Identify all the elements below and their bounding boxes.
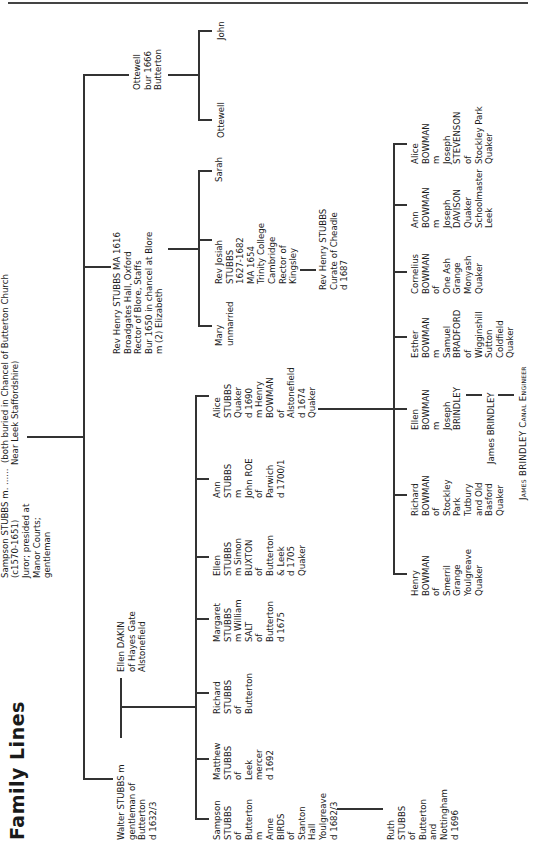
connector-b-alice xyxy=(393,144,407,146)
connector-b-cornelius xyxy=(393,272,407,274)
node-richard-stubbs: Richard STUBBS of Butterton xyxy=(212,673,254,714)
node-sampson-stubbs-root: Sampson STUBBS m. ...... (both buried in… xyxy=(0,274,11,578)
node-walter-stubbs: Walter STUBBS m gentleman of Butterton d… xyxy=(116,764,158,840)
connector-b-ellen xyxy=(393,409,407,411)
connector-o-john xyxy=(198,31,212,33)
node-matthew-stubbs: Matthew STUBBS of Leek mercer d 1692 xyxy=(212,743,276,780)
connector-w-margaret xyxy=(195,619,209,621)
node-ottewell: Ottewell bur 1666 Butterton xyxy=(132,49,164,90)
node-ann-stubbs: Ann STUBBS m John ROE of Parwich d 1700/… xyxy=(212,458,286,498)
node-ellen-bowman: Ellen BOWMAN m Joseph BRINDLEY xyxy=(410,387,463,430)
node-sampson-stubbs-dates: (c1570-1651) Near Leek Staffordshire) xyxy=(10,361,21,578)
node-margaret-stubbs: Margaret STUBBS m William SALT of Butter… xyxy=(212,599,286,642)
node-ottewell-jr: Ottewell xyxy=(216,102,227,138)
connector-bowman-children-bar xyxy=(393,144,395,575)
node-cornelius-bowman: Cornelius BOWMAN of One Ash Grange Monya… xyxy=(410,253,484,294)
node-rev-josiah-stubbs: Rev Josiah STUBBS 1627-1682 MA 1654 Trin… xyxy=(214,223,299,284)
node-john: John xyxy=(216,21,227,40)
connector-o-ottewell xyxy=(198,120,212,122)
node-esther-bowman: Esther BOWMAN m Samuel BRADFORD of Wiggi… xyxy=(410,310,516,358)
connector-ottewell xyxy=(83,75,129,77)
connector-rev-henry-children-stub xyxy=(168,249,198,251)
connector-h-mary xyxy=(198,326,212,328)
connector-rev-henry-jr xyxy=(300,270,316,272)
node-sampson-stubbs-details: Juror; presided at Manor Courts; gentlem… xyxy=(21,504,53,578)
page-title: Family Lines xyxy=(6,701,28,840)
connector-root-stub xyxy=(27,437,83,439)
node-sarah-stubbs: Sarah xyxy=(214,157,225,182)
connector-w-ann xyxy=(195,479,209,481)
node-rev-henry-stubbs: Rev Henry STUBBS MA 1616 Broadgates Hall… xyxy=(112,232,165,354)
connector-walter-children-bar xyxy=(195,396,197,820)
connector-gen2-bar xyxy=(83,75,85,780)
connector-james-brindley-engineer xyxy=(498,395,514,397)
page-edge-rule xyxy=(8,2,528,4)
node-ellen-dakin: Ellen DAKIN of Hayes Gate Alstonefield xyxy=(116,611,148,672)
node-sampson-stubbs-jr: Sampson STUBBS of Butterton m Anne BIRDS… xyxy=(212,793,339,840)
connector-h-sarah xyxy=(198,171,212,173)
node-richard-bowman: Richard BOWMAN of Stockley Park Tutbury … xyxy=(410,475,505,516)
connector-w-matthew xyxy=(195,759,209,761)
connector-h-josiah xyxy=(198,240,212,242)
node-ruth-stubbs: Ruth STUBBS of Butterton and Nottingham … xyxy=(386,789,460,840)
family-tree-diagram: Family Lines Sampson STUBBS m. ...... (b… xyxy=(0,0,556,846)
connector-bowman-stub xyxy=(318,409,393,411)
connector-james-brindley xyxy=(466,395,482,397)
node-alice-bowman: Alice BOWMAN m Joseph STEVENSON of Stock… xyxy=(410,106,495,164)
node-alice-stubbs: Alice STUBBS Quaker d 1690 m Henry BOWMA… xyxy=(212,367,318,418)
connector-w-ellen xyxy=(195,557,209,559)
connector-rev-henry xyxy=(83,267,111,269)
connector-b-ann xyxy=(393,205,407,207)
connector-b-richard xyxy=(393,495,407,497)
connector-walter xyxy=(83,779,113,781)
node-james-brindley-canal-engineer: James BRINDLEY Canal Engineer xyxy=(518,366,529,500)
node-rev-henry-stubbs-jr: Rev Henry STUBBS Curate of Cheadle d 168… xyxy=(318,209,350,290)
node-henry-bowman: Henry BOWMAN of Smerril Grange Youlgreav… xyxy=(410,549,484,596)
connector-ottewell-children-bar xyxy=(198,31,200,121)
connector-ottewell-children-stub xyxy=(168,75,198,77)
node-ann-bowman: Ann BOWMAN m Joseph DAVISON Quaker Schoo… xyxy=(410,169,495,228)
node-james-brindley: James BRINDLEY xyxy=(486,392,497,464)
connector-w-alice xyxy=(195,396,209,398)
node-mary-stubbs: Mary unmarried xyxy=(214,301,235,346)
connector-ruth xyxy=(337,809,383,811)
connector-walter-children-stub xyxy=(120,707,195,709)
connector-w-sampson xyxy=(195,819,209,821)
connector-w-richard xyxy=(195,693,209,695)
connector-b-esther xyxy=(393,337,407,339)
node-ellen-stubbs: Ellen STUBBS m Simon BUXTON of Butterton… xyxy=(212,535,307,576)
connector-walter-marriage xyxy=(120,678,122,738)
connector-rev-henry-children-bar xyxy=(198,171,200,327)
connector-b-henry xyxy=(393,574,407,576)
